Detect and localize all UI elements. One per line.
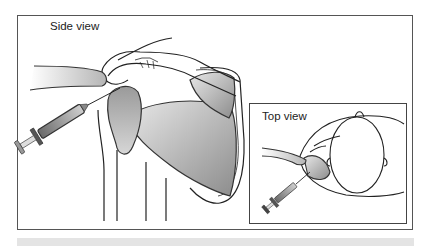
- side-view-label: Side view: [50, 20, 99, 32]
- shoulder-injection-illustration: [0, 0, 423, 246]
- side-view: [13, 38, 244, 221]
- top-view-label: Top view: [262, 110, 307, 122]
- bottom-band: [17, 238, 414, 246]
